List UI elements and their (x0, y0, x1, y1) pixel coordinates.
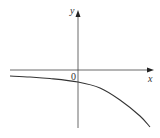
origin-label: 0 (71, 72, 76, 82)
function-curve (10, 76, 150, 127)
function-graph (0, 0, 160, 138)
y-axis-label: y (70, 6, 74, 16)
y-axis-arrow-icon (76, 10, 81, 17)
x-axis-arrow-icon (147, 68, 154, 73)
x-axis-label: x (148, 74, 152, 84)
